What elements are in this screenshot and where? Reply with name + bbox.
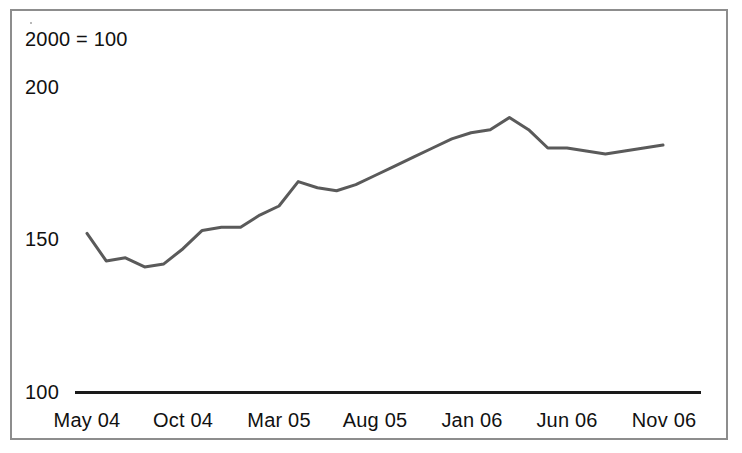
chart-figure: 2000 = 100 200 150 100 May 04 Oct 04 Mar… (0, 0, 742, 453)
figure-border (10, 9, 728, 440)
